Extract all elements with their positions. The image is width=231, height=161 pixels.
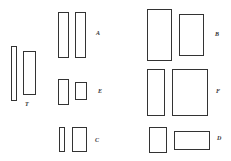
group-label: C — [95, 137, 99, 143]
rectangle-b-1 — [147, 9, 172, 61]
group-label: T — [25, 101, 29, 107]
rectangle-t-1 — [11, 46, 17, 101]
rectangle-e-1 — [58, 79, 69, 105]
group-label: A — [96, 30, 100, 36]
rectangle-f-1 — [147, 69, 165, 116]
rectangle-c-1 — [59, 127, 65, 152]
rectangle-d-1 — [149, 127, 167, 153]
rectangle-f-2 — [172, 69, 208, 116]
rectangle-e-2 — [75, 82, 87, 100]
rectangle-d-2 — [174, 131, 210, 150]
rectangle-a-2 — [75, 12, 86, 58]
group-label: B — [215, 31, 219, 37]
rectangle-c-2 — [72, 127, 87, 152]
group-label: D — [217, 135, 221, 141]
group-label: F — [216, 88, 220, 94]
rectangle-a-1 — [58, 12, 69, 58]
rectangle-t-2 — [23, 51, 36, 95]
group-label: E — [98, 88, 102, 94]
rectangle-b-2 — [179, 14, 204, 56]
